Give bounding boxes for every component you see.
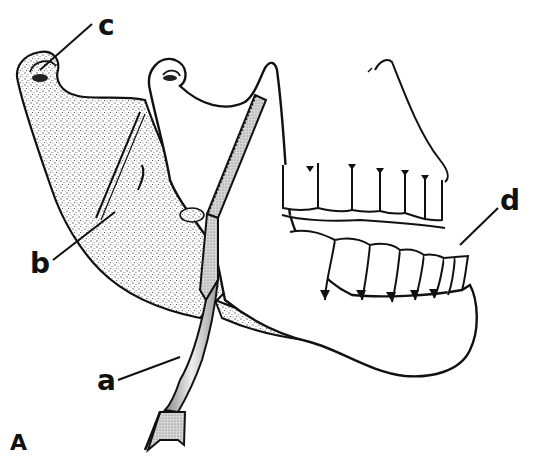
leader-a xyxy=(118,357,180,380)
label-a: a xyxy=(97,367,116,395)
panel-label: A xyxy=(10,432,27,454)
leader-c xyxy=(40,24,92,70)
label-d: d xyxy=(500,187,520,215)
label-b: b xyxy=(30,250,50,278)
upper-teeth xyxy=(282,163,445,228)
label-c: c xyxy=(98,12,115,40)
maxilla-outline xyxy=(375,60,448,182)
leader-d xyxy=(460,208,498,245)
mandible-osteotomy-illustration xyxy=(0,0,537,469)
